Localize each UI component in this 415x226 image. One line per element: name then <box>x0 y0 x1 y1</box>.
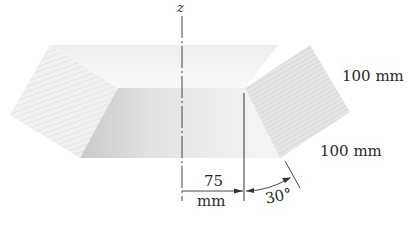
upper-edge-dimension: 100 mm <box>342 69 404 84</box>
radial-offset-unit: mm <box>197 194 225 209</box>
angle-arrowhead-left <box>246 188 254 193</box>
z-axis-label: z <box>177 1 184 14</box>
dimension-arrowhead <box>234 189 243 194</box>
lower-edge-dimension: 100 mm <box>320 144 382 159</box>
radial-offset-value: 75 <box>204 174 223 189</box>
angle-arrowhead-right <box>282 178 291 184</box>
diagram-figure: z 100 mm 100 mm 75 mm 30° <box>0 0 415 226</box>
